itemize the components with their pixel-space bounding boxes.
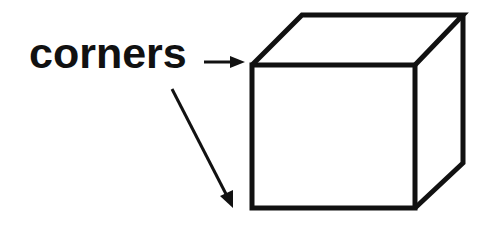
cube-top-face bbox=[252, 15, 463, 65]
cube-front-face bbox=[252, 65, 415, 208]
horizontal-arrow bbox=[204, 56, 245, 68]
cube-diagram bbox=[0, 0, 495, 236]
cube-right-face bbox=[415, 15, 463, 208]
diagonal-arrow bbox=[172, 89, 233, 208]
